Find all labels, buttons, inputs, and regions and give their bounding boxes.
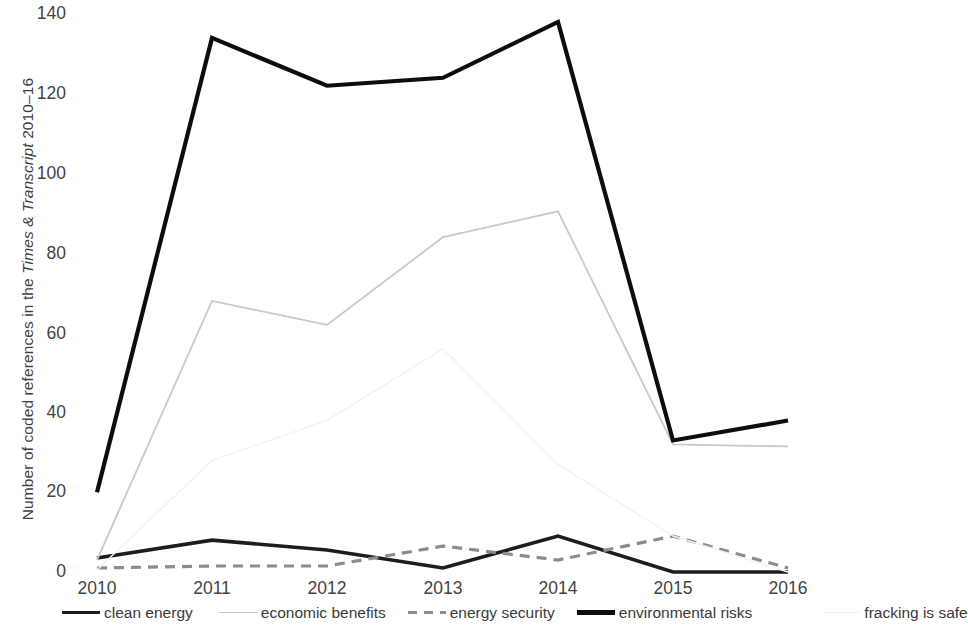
- legend-item-economic-benefits[interactable]: economic benefits: [219, 605, 386, 621]
- x-axis-tick-label: 2014: [513, 578, 603, 599]
- chart-legend: clean energyeconomic benefitsenergy secu…: [0, 600, 818, 625]
- y-axis-tick-label: 140: [16, 5, 66, 23]
- legend-label: clean energy: [104, 605, 193, 621]
- y-axis-tick-label: 80: [16, 245, 66, 263]
- x-axis-tick-label: 2010: [52, 578, 142, 599]
- legend-label: fracking is safe: [864, 605, 967, 621]
- series-line-fracking-is-safe: [97, 349, 788, 572]
- legend-line-environmental-risks: [577, 606, 615, 620]
- x-axis-tick-label: 2011: [167, 578, 257, 599]
- legend-label: energy security: [450, 605, 555, 621]
- y-axis-tick-label: 100: [16, 165, 66, 183]
- legend-item-environmental-risks[interactable]: environmental risks: [577, 605, 753, 621]
- legend-line-energy-security: [408, 606, 446, 620]
- series-line-environmental-risks: [97, 22, 788, 492]
- x-axis-tick-label: 2015: [628, 578, 718, 599]
- y-axis-tick-label: 20: [16, 483, 66, 501]
- series-line-clean-energy: [97, 536, 788, 572]
- x-axis-tick-label: 2016: [743, 578, 833, 599]
- y-axis-tick-label: 40: [16, 404, 66, 422]
- legend-item-clean-energy[interactable]: clean energy: [62, 605, 193, 621]
- legend-line-clean-energy: [62, 606, 100, 620]
- legend-item-energy-security[interactable]: energy security: [408, 605, 555, 621]
- legend-item-fracking-is-safe[interactable]: fracking is safe: [822, 605, 967, 621]
- x-axis-tick-label: 2012: [282, 578, 372, 599]
- series-line-energy-security: [97, 536, 788, 568]
- legend-label: environmental risks: [619, 605, 753, 621]
- legend-line-fracking-is-safe: [822, 606, 860, 620]
- legend-line-economic-benefits: [219, 606, 257, 620]
- y-axis-tick-label: 120: [16, 85, 66, 103]
- y-axis-ticks: 140120100806040200: [0, 0, 66, 625]
- x-axis-tick-label: 2013: [398, 578, 488, 599]
- legend-label: economic benefits: [261, 605, 386, 621]
- series-line-economic-benefits: [97, 211, 788, 560]
- y-axis-tick-label: 60: [16, 325, 66, 343]
